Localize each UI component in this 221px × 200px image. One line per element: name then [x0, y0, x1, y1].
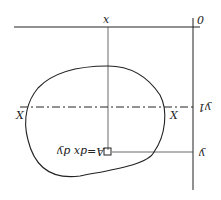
centroid-axis-label-left: X — [16, 110, 24, 121]
centroid-axis-label-right: X — [170, 110, 178, 121]
area-element-square — [104, 148, 111, 155]
x-axis-label: x — [103, 14, 109, 25]
diagram-canvas — [0, 0, 221, 200]
origin-label: 0 — [197, 15, 204, 26]
y1-label: y1 — [198, 102, 211, 113]
area-element-label: A=dx dy — [57, 146, 104, 157]
cross-section-outline — [26, 66, 165, 177]
y-label: y — [199, 148, 205, 159]
